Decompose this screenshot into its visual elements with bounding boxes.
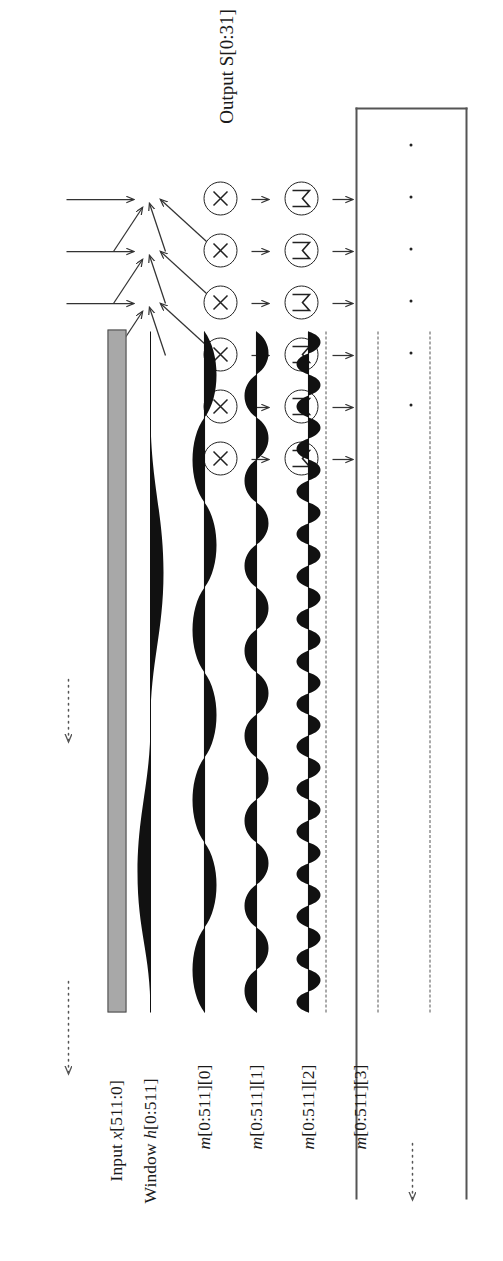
basis-waveform-dashed xyxy=(429,331,430,1012)
multiply-circle-icon xyxy=(203,285,237,319)
output-dot xyxy=(409,299,412,302)
output-dot xyxy=(409,403,412,406)
page-title: Output S[0:31] xyxy=(215,9,237,124)
basis-waveform-dashed xyxy=(377,331,378,1012)
magnitude-circle-icon xyxy=(284,285,318,319)
output-dot xyxy=(409,143,412,146)
basis-waveform-m0 xyxy=(187,331,221,1012)
row-label-m2: m[0:511][2] xyxy=(298,1064,319,1149)
output-dot xyxy=(409,247,412,250)
magnitude-circle-icon xyxy=(284,233,318,267)
diagram-canvas: Output S[0:31] xyxy=(0,0,503,1261)
input-signal-bar xyxy=(107,329,126,1012)
row-label-m1: m[0:511][1] xyxy=(246,1064,267,1149)
row-label-input: Input x[511:0] xyxy=(106,1080,127,1181)
basis-waveform-m3-dashed xyxy=(325,331,326,1012)
basis-waveform-m2 xyxy=(291,331,325,1012)
multiply-circle-icon xyxy=(203,181,237,215)
output-dot xyxy=(409,195,412,198)
basis-waveform-m1 xyxy=(239,331,273,1012)
window-waveform xyxy=(135,331,165,1012)
output-bracket xyxy=(355,107,467,1199)
output-dot xyxy=(409,351,412,354)
multiply-circle-icon xyxy=(203,233,237,267)
magnitude-circle-icon xyxy=(284,181,318,215)
row-label-m3: m[0:511][3] xyxy=(350,1064,371,1149)
row-label-window: Window h[0:511] xyxy=(140,1078,161,1203)
row-label-m0: m[0:511][0] xyxy=(194,1064,215,1149)
